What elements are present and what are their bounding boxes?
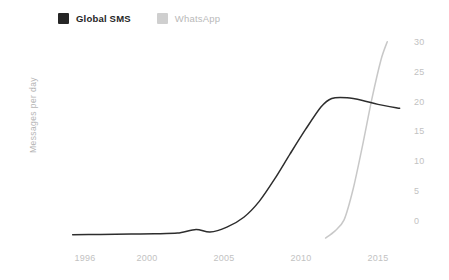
y-tick-25: 25: [414, 68, 425, 77]
y-tick-10: 10: [414, 157, 425, 166]
series-group: [73, 42, 400, 238]
y-tick-15: 15: [414, 127, 425, 136]
line-global-sms: [73, 98, 400, 235]
y-tick-30: 30: [414, 38, 425, 47]
chart-container: Global SMS WhatsApp Messages per day 30 …: [0, 0, 449, 280]
chart-svg: [0, 0, 449, 280]
x-tick-2005: 2005: [204, 254, 244, 263]
y-tick-5: 5: [414, 187, 419, 196]
x-tick-1996: 1996: [65, 254, 105, 263]
x-tick-2010: 2010: [281, 254, 321, 263]
y-tick-0: 0: [414, 217, 419, 226]
x-tick-2000: 2000: [127, 254, 167, 263]
line-whatsapp: [326, 42, 388, 238]
plot-area: [0, 0, 449, 280]
y-tick-20: 20: [414, 98, 425, 107]
x-tick-2015: 2015: [358, 254, 398, 263]
